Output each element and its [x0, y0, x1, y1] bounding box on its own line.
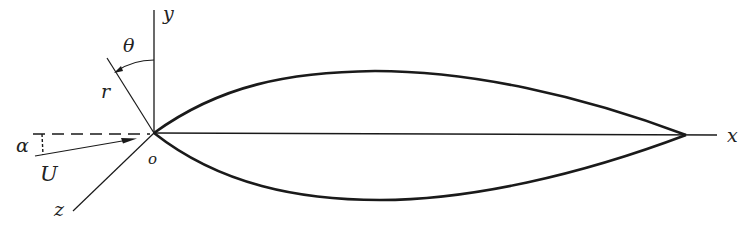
arrowhead-icon [121, 138, 137, 144]
theta-label: θ [123, 34, 135, 56]
x-axis-label: x [727, 124, 738, 146]
airfoil-lower-surface [154, 133, 686, 200]
z-axis-label: z [53, 198, 65, 220]
theta-arrowhead-icon [114, 66, 123, 73]
y-axis-label: y [162, 2, 174, 24]
velocity-arrow [35, 140, 128, 156]
radius-label: r [101, 80, 112, 102]
alpha-label: α [16, 134, 29, 156]
velocity-label: U [40, 162, 59, 186]
airfoil-diagram: y x z o r θ α U [0, 0, 751, 228]
radius-line [107, 58, 154, 133]
x-axis [154, 133, 717, 135]
alpha-angle-marker [42, 134, 43, 155]
airfoil-upper-surface [154, 71, 686, 135]
z-axis [73, 133, 154, 211]
origin-label: o [148, 150, 157, 168]
theta-arc [117, 60, 154, 71]
